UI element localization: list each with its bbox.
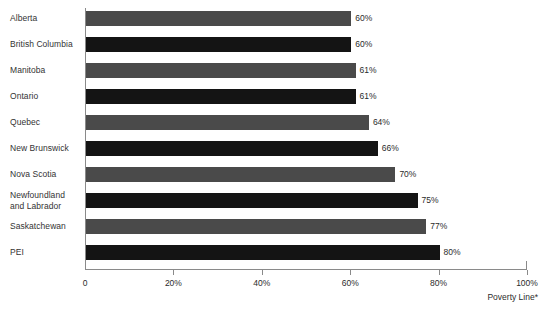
x-tick-label: 60% [342, 278, 359, 288]
x-tick-label: 100% [516, 278, 538, 288]
bar-value-label: 64% [373, 115, 390, 130]
bar-value-label: 70% [399, 167, 416, 182]
x-tick-label: 80% [430, 278, 447, 288]
bar [86, 115, 369, 130]
bar [86, 11, 351, 26]
bar-chart: AlbertaBritish ColumbiaManitobaOntarioQu… [0, 0, 544, 312]
category-label: Ontario [10, 91, 82, 102]
category-label: Nova Scotia [10, 169, 82, 180]
category-label: Quebec [10, 117, 82, 128]
bar [86, 167, 395, 182]
x-tick [262, 270, 263, 275]
category-label: Alberta [10, 13, 82, 24]
bar [86, 219, 426, 234]
bar-value-label: 77% [430, 219, 447, 234]
bar [86, 193, 418, 208]
category-label: British Columbia [10, 39, 82, 50]
x-tick [350, 270, 351, 275]
bar [86, 37, 351, 52]
x-tick-label: 40% [253, 278, 270, 288]
x-tick [527, 270, 528, 275]
category-label: PEI [10, 247, 82, 258]
category-label: Manitoba [10, 65, 82, 76]
bar [86, 89, 356, 104]
x-tick [439, 270, 440, 275]
bar [86, 245, 440, 260]
category-label: Newfoundland and Labrador [10, 190, 82, 211]
category-label: Saskatchewan [10, 221, 82, 232]
bar [86, 141, 378, 156]
bar-value-label: 60% [355, 37, 372, 52]
bar [86, 63, 356, 78]
plot-area: 60%60%61%61%64%66%70%75%77%80% 020%40%60… [85, 8, 527, 269]
bar-value-label: 61% [360, 63, 377, 78]
x-axis-caption: Poverty Line* [487, 292, 538, 302]
x-tick-label: 0 [83, 278, 88, 288]
bar-value-label: 61% [360, 89, 377, 104]
x-axis-end-tick [526, 261, 527, 270]
bar-value-label: 66% [382, 141, 399, 156]
x-axis-line [85, 269, 527, 270]
bar-value-label: 60% [355, 11, 372, 26]
category-label: New Brunswick [10, 143, 82, 154]
x-tick [173, 270, 174, 275]
bar-value-label: 75% [422, 193, 439, 208]
x-tick-label: 20% [165, 278, 182, 288]
bar-value-label: 80% [444, 245, 461, 260]
